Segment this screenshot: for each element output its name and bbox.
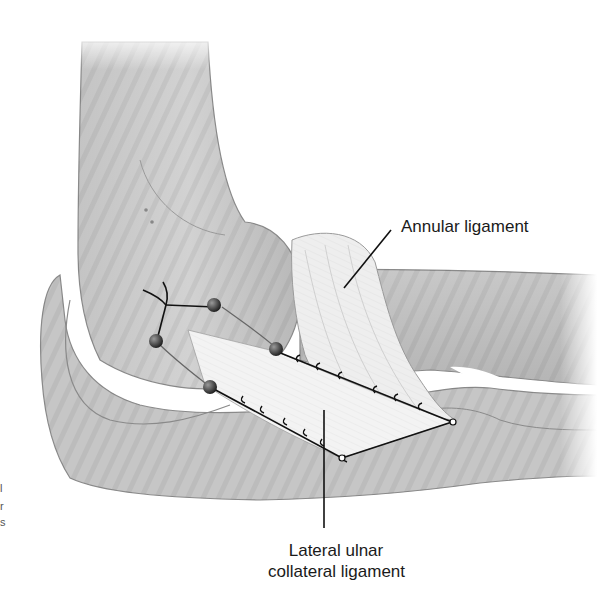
edge-text-fragment: s	[0, 516, 6, 528]
label-lateral-ulnar-collateral-ligament: Lateral ulnar collateral ligament	[268, 540, 404, 582]
elbow-anatomy-drawing	[0, 0, 597, 594]
label-annular-ligament: Annular ligament	[401, 216, 529, 237]
label-lucl-line2: collateral ligament	[268, 561, 404, 582]
humerus-bone	[70, 30, 300, 389]
label-lucl-line1: Lateral ulnar	[268, 540, 404, 561]
edge-text-fragment: r	[0, 500, 4, 512]
edge-text-fragment: l	[0, 482, 2, 494]
elbow-illustration: Annular ligament Lateral ulnar collatera…	[0, 0, 597, 594]
